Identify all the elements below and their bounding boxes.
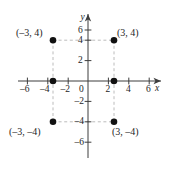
point-label-neg3-neg4: (–3, –4)	[9, 127, 41, 137]
y-tick-label-2: 2	[78, 56, 83, 66]
x-tick-label-6: 6	[146, 85, 151, 95]
y-tick-label--4: –4	[75, 117, 85, 127]
data-point-3-neg4	[111, 119, 118, 126]
origin-label: 0	[79, 85, 84, 95]
axis-arrowheads	[85, 14, 161, 84]
point-label-3-neg4: (3, –4)	[112, 127, 139, 137]
data-point-neg3-0	[50, 78, 57, 85]
data-point-neg3-neg4	[50, 119, 57, 126]
x-tick-label--4: –4	[40, 85, 50, 95]
x-tick-label-4: 4	[126, 85, 131, 95]
x-tick-label--6: –6	[20, 85, 30, 95]
data-point-neg3-4	[50, 37, 57, 44]
data-point-3-0	[111, 78, 118, 85]
y-axis-name: y	[81, 13, 85, 23]
y-tick-label-4: 4	[78, 36, 83, 46]
x-tick-label--2: –2	[61, 85, 71, 95]
y-tick-label--2: –2	[75, 97, 85, 107]
coordinate-plane-figure: –6 –4 –2 2 4 6 6 4 2 –2 –4 –6 0 x y (–3,…	[0, 0, 173, 170]
y-tick-label-6: 6	[78, 26, 83, 36]
point-label-neg3-4: (–3, 4)	[16, 28, 43, 38]
x-axis-name: x	[155, 84, 159, 94]
point-label-3-4: (3, 4)	[117, 28, 139, 38]
y-tick-label--6: –6	[75, 138, 85, 148]
x-tick-label-2: 2	[106, 85, 111, 95]
